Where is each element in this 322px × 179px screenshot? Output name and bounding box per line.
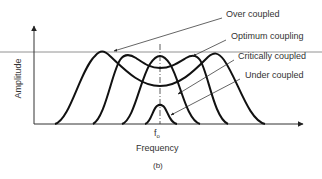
curve-optimum-coupling <box>93 55 228 124</box>
label-under-coupled: Under coupled <box>245 71 304 80</box>
leader-optimum-coupling <box>193 40 226 56</box>
label-optimum-coupling: Optimum coupling <box>231 32 304 41</box>
curve-critically-coupled <box>122 56 200 124</box>
leader-over-coupled <box>114 18 222 51</box>
y-axis-label: Amplitude <box>14 59 23 99</box>
leader-under-coupled <box>171 79 240 115</box>
figure-caption: (b) <box>153 162 163 170</box>
f-subscript: o <box>157 133 160 139</box>
label-over-coupled: Over coupled <box>226 10 280 19</box>
label-critically-coupled: Critically coupled <box>238 52 306 61</box>
x-axis-label: Frequency <box>136 144 179 153</box>
center-frequency-label: fo <box>154 129 160 139</box>
